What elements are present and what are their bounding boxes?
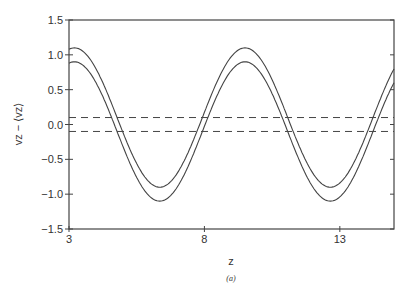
y-tick-label: −0.5: [41, 153, 63, 165]
y-tick-label: 0.5: [48, 84, 63, 96]
y-tick-label: −1.0: [41, 188, 63, 200]
x-tick-label: 8: [201, 233, 207, 245]
x-tick-label: 3: [66, 233, 72, 245]
y-tick-label: −1.5: [41, 223, 63, 235]
y-tick-label: 1.0: [48, 49, 63, 61]
y-tick-label: 1.5: [48, 14, 63, 26]
plot-lines: [69, 48, 394, 201]
chart-figure: −1.5−1.0−0.50.00.51.01.5 3813 z vz − ⟨vz…: [0, 0, 416, 298]
y-tick-label: 0.0: [48, 119, 63, 131]
x-tick-label: 13: [334, 233, 346, 245]
y-axis-label: vz − ⟨vz⟩: [12, 103, 24, 146]
y-axis-ticks: −1.5−1.0−0.50.00.51.01.5: [41, 14, 394, 235]
x-axis-label: z: [228, 255, 234, 267]
figure-caption: (a): [226, 274, 236, 283]
plot-frame: [69, 20, 394, 229]
